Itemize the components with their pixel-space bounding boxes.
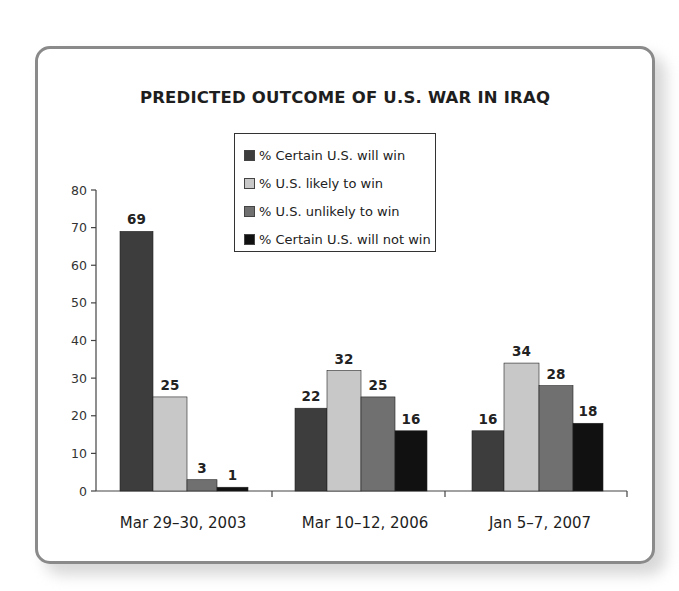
bar bbox=[472, 431, 504, 491]
figure: PREDICTED OUTCOME OF U.S. WAR IN IRAQ 01… bbox=[0, 0, 679, 591]
bar-value-label: 25 bbox=[161, 377, 180, 393]
legend-item-certain-not-win: % Certain U.S. will not win bbox=[244, 225, 435, 253]
bar bbox=[153, 397, 187, 491]
x-category-label: Mar 10–12, 2006 bbox=[302, 514, 428, 532]
legend-label: % Certain U.S. will not win bbox=[259, 232, 431, 247]
y-tick-label: 10 bbox=[71, 446, 87, 461]
bar-value-label: 34 bbox=[512, 343, 531, 359]
y-tick-label: 0 bbox=[79, 484, 87, 499]
y-tick-label: 60 bbox=[71, 258, 87, 273]
bar-value-label: 16 bbox=[479, 411, 498, 427]
legend-swatch-icon bbox=[244, 234, 255, 245]
y-tick-label: 70 bbox=[71, 220, 87, 235]
bar-value-label: 1 bbox=[228, 467, 237, 483]
bar bbox=[504, 363, 539, 491]
bar-value-label: 22 bbox=[302, 388, 321, 404]
bar bbox=[361, 397, 395, 491]
bar-value-label: 32 bbox=[335, 351, 354, 367]
bar-value-label: 3 bbox=[197, 460, 206, 476]
bar bbox=[295, 408, 327, 491]
legend: % Certain U.S. will win % U.S. likely to… bbox=[234, 133, 436, 252]
y-tick-label: 80 bbox=[71, 183, 87, 198]
bar bbox=[395, 431, 427, 491]
legend-swatch-icon bbox=[244, 178, 255, 189]
legend-label: % U.S. likely to win bbox=[259, 176, 383, 191]
bar-value-label: 28 bbox=[547, 366, 566, 382]
legend-label: % Certain U.S. will win bbox=[259, 148, 405, 163]
legend-item-certain-win: % Certain U.S. will win bbox=[244, 141, 435, 169]
bar-value-label: 69 bbox=[127, 211, 146, 227]
x-category-label: Jan 5–7, 2007 bbox=[488, 514, 591, 532]
bar bbox=[187, 480, 217, 491]
bar bbox=[573, 423, 603, 491]
chart-plot: 01020304050607080 692531Mar 29–30, 20032… bbox=[0, 0, 679, 591]
y-tick-label: 50 bbox=[71, 295, 87, 310]
bar-value-label: 25 bbox=[369, 377, 388, 393]
legend-item-likely-win: % U.S. likely to win bbox=[244, 169, 435, 197]
legend-item-unlikely-win: % U.S. unlikely to win bbox=[244, 197, 435, 225]
bar-value-label: 16 bbox=[402, 411, 421, 427]
y-tick-label: 40 bbox=[71, 333, 87, 348]
bars bbox=[120, 231, 603, 491]
y-tick-label: 30 bbox=[71, 371, 87, 386]
x-category-label: Mar 29–30, 2003 bbox=[120, 514, 246, 532]
bar bbox=[539, 386, 573, 491]
bar bbox=[217, 487, 248, 491]
bar-value-label: 18 bbox=[579, 403, 598, 419]
legend-label: % U.S. unlikely to win bbox=[259, 204, 400, 219]
y-tick-label: 20 bbox=[71, 408, 87, 423]
bar bbox=[120, 231, 153, 491]
legend-swatch-icon bbox=[244, 150, 255, 161]
bar bbox=[327, 371, 361, 491]
legend-swatch-icon bbox=[244, 206, 255, 217]
